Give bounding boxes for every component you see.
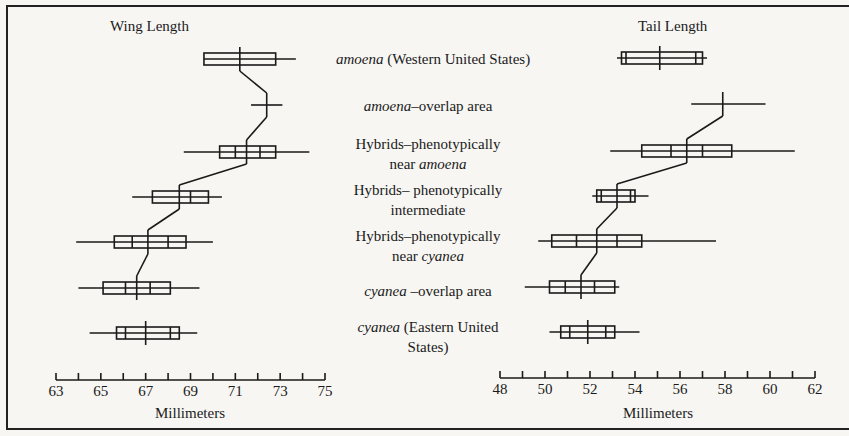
x-tick-label: 60	[763, 381, 778, 398]
wing-length-plot	[56, 47, 325, 380]
box-plot-row	[76, 230, 213, 254]
box-plot-row	[592, 184, 648, 208]
mean-connector	[148, 209, 179, 230]
mean-connector	[617, 163, 687, 184]
wing-length-title: Wing Length	[110, 18, 189, 35]
box-plot-row	[251, 93, 282, 117]
category-label: amoena–overlap area	[336, 96, 520, 116]
box-plot-row	[610, 139, 795, 163]
x-tick-label: 69	[183, 383, 198, 400]
x-tick-label: 58	[718, 381, 733, 398]
x-tick-label: 50	[538, 381, 553, 398]
x-tick-label: 73	[273, 383, 288, 400]
mean-connector	[247, 117, 267, 140]
mean-connector	[581, 253, 597, 275]
box-plot-row	[132, 185, 222, 209]
box-plot-row	[691, 92, 765, 116]
tail-length-plot	[500, 46, 815, 378]
category-label: amoena (Western United States)	[336, 49, 520, 69]
category-label: Hybrids–phenotypicallynear amoena	[336, 134, 520, 174]
category-label: cyanea –overlap area	[336, 281, 520, 301]
x-tick-label: 62	[808, 381, 823, 398]
mean-connector	[687, 116, 723, 139]
mean-connector	[179, 164, 246, 185]
mean-connector	[597, 208, 617, 229]
category-label: cyanea (Eastern UnitedStates)	[336, 317, 520, 357]
x-tick-label: 54	[628, 381, 643, 398]
x-tick-label: 48	[493, 381, 508, 398]
box-plot-row	[90, 321, 198, 345]
mean-connector	[240, 71, 267, 93]
box-plot-row	[184, 140, 310, 164]
box-plot-row	[78, 276, 199, 300]
x-tick-label: 67	[138, 383, 153, 400]
wing-axis-title: Millimeters	[155, 405, 225, 422]
tail-axis-title: Millimeters	[623, 405, 693, 422]
x-tick-label: 71	[228, 383, 243, 400]
category-label: Hybrids–phenotypicallynear cyanea	[336, 226, 520, 266]
box-plot-row	[525, 275, 620, 299]
mean-connector	[137, 254, 148, 276]
x-tick-label: 52	[583, 381, 598, 398]
x-tick-label: 56	[673, 381, 688, 398]
tail-length-title: Tail Length	[638, 18, 707, 35]
x-tick-label: 75	[318, 383, 333, 400]
x-tick-label: 65	[93, 383, 108, 400]
box-plot-row	[617, 46, 707, 70]
box-plot-row	[550, 320, 640, 344]
category-label: Hybrids– phenotypicallyintermediate	[336, 180, 520, 220]
box-plot-row	[538, 229, 716, 253]
box-plot-row	[204, 47, 296, 71]
x-tick-label: 63	[49, 383, 64, 400]
